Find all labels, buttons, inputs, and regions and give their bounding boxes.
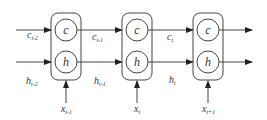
lstm-diagram: c h xt-1 c h xt c h xt+1 ct-2 ht-2 ct-1 … (0, 0, 267, 120)
h-node-label: h (134, 55, 140, 69)
h-node-label: h (205, 55, 211, 69)
label-h-t-2: ht-2 (26, 75, 38, 87)
edge-labels: ct-2 ht-2 ct-1 ht-1 ct ht (26, 29, 176, 87)
label-h-t-1: ht-1 (94, 75, 106, 87)
c-node-label: c (134, 23, 140, 37)
c-node-label: c (205, 23, 211, 37)
input-label: xt (133, 103, 140, 115)
cell-t-minus-1: c h xt-1 (51, 13, 81, 115)
c-node-label: c (63, 23, 69, 37)
cell-t: c h xt (122, 13, 152, 115)
label-c-t: ct (167, 31, 173, 43)
input-label: xt+1 (201, 103, 215, 115)
label-c-t-2: ct-2 (27, 29, 38, 41)
cell-t-plus-1: c h xt+1 (193, 13, 223, 115)
h-node-label: h (63, 55, 69, 69)
input-label: xt-1 (60, 103, 72, 115)
label-c-t-1: ct-1 (92, 31, 103, 43)
label-h-t: ht (169, 74, 176, 86)
